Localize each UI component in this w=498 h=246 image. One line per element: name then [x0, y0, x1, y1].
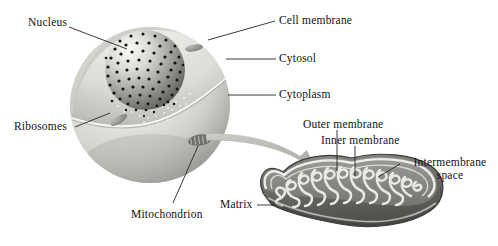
label-outer-membrane: Outer membrane	[303, 118, 383, 131]
label-ribosomes: Ribosomes	[14, 120, 67, 133]
label-nucleus: Nucleus	[28, 16, 67, 29]
nucleus-sphere	[105, 30, 185, 110]
label-intermembrane-space-line1: Intermembrane	[414, 156, 487, 168]
label-cytoplasm: Cytoplasm	[279, 88, 331, 101]
leader-cell-membrane	[208, 21, 275, 40]
label-mitochondrion: Mitochondrion	[131, 208, 203, 221]
label-inner-membrane: Inner membrane	[321, 134, 399, 147]
label-cell-membrane: Cell membrane	[279, 14, 352, 27]
label-cytosol: Cytosol	[279, 52, 316, 65]
label-intermembrane-space-line2: space	[437, 169, 464, 181]
label-matrix: Matrix	[220, 198, 253, 211]
cell-diagram-figure: Nucleus Cell membrane Cytosol Cytoplasm …	[0, 0, 498, 246]
cell-body-group	[68, 22, 236, 202]
